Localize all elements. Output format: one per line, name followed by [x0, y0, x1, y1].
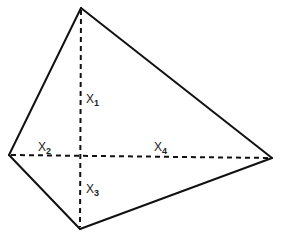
edge-left-top — [9, 8, 81, 155]
edge-right-bottom — [80, 158, 272, 229]
label-x1-base: X — [86, 92, 94, 106]
label-x1: X1 — [86, 92, 99, 108]
label-x4-base: X — [154, 140, 162, 154]
label-x2-base: X — [38, 140, 46, 154]
label-x3-base: X — [86, 182, 94, 196]
label-x3: X3 — [86, 182, 99, 198]
label-x2: X2 — [38, 140, 51, 156]
edge-bottom-left — [9, 155, 80, 229]
label-x2-subscript: 2 — [46, 146, 51, 156]
quadrilateral-diagram: X1 X2 X3 X4 — [0, 0, 281, 237]
label-x3-subscript: 3 — [94, 188, 99, 198]
label-x4: X4 — [154, 140, 167, 156]
edge-top-right — [81, 8, 272, 158]
diagonal-vertical — [80, 10, 81, 227]
label-x4-subscript: 4 — [162, 146, 167, 156]
label-x1-subscript: 1 — [94, 98, 99, 108]
